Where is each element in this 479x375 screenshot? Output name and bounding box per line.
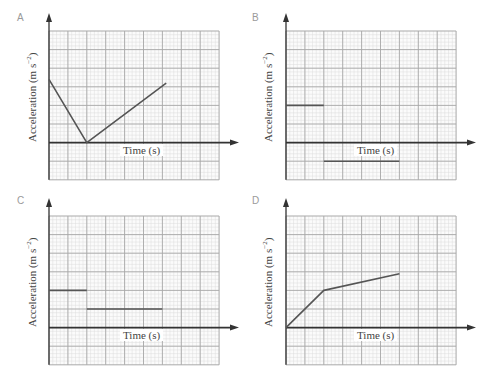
y-axis-arrow-icon	[283, 198, 289, 207]
y-axis-label: Acceleration (m s−2)	[25, 53, 38, 142]
y-axis-arrow-icon	[46, 13, 52, 22]
y-axis-label: Acceleration (m s−2)	[261, 238, 274, 327]
y-axis-arrow-icon	[283, 13, 289, 22]
chart-panel-d: D Acceleration (m s−2) Time (s)	[237, 185, 477, 372]
chart-panel-b: B Acceleration (m s−2) Time (s)	[237, 0, 477, 187]
y-axis-arrow-icon	[46, 198, 52, 207]
x-axis-label: Time (s)	[354, 329, 397, 341]
x-axis-label: Time (s)	[120, 329, 163, 341]
chart-panel-a: A Acceleration (m s−2) Time (s)	[0, 0, 240, 187]
x-axis-label: Time (s)	[120, 144, 163, 156]
chart-panel-c: C Acceleration (m s−2) Time (s)	[0, 185, 240, 372]
x-axis-label: Time (s)	[354, 144, 397, 156]
y-axis-label: Acceleration (m s−2)	[25, 238, 38, 327]
y-axis-label: Acceleration (m s−2)	[261, 53, 274, 142]
grid	[286, 216, 456, 365]
grid	[49, 31, 219, 180]
x-axis-arrow-icon	[467, 325, 476, 331]
x-axis-arrow-icon	[467, 140, 476, 146]
